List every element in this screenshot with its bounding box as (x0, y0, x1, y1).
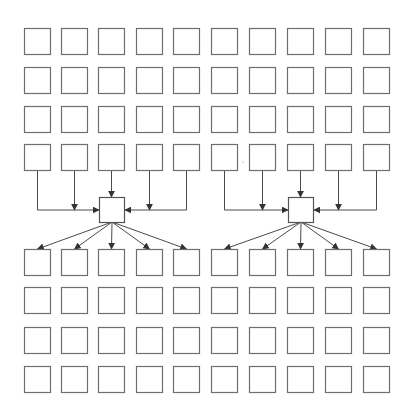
node-upper-r3-c9 (326, 107, 352, 133)
scan-speck (242, 161, 244, 163)
node-rect (212, 29, 238, 55)
node-rect (212, 288, 238, 314)
node-lower-r2-c2 (62, 288, 88, 314)
node-upper-r1-c8 (288, 29, 314, 55)
node-lower-r1-c2 (62, 250, 88, 276)
node-rect (364, 328, 390, 354)
node-upper-r4-c5 (174, 145, 200, 171)
node-lower-r4-c1 (25, 367, 51, 393)
node-rect (250, 107, 276, 133)
node-upper-r4-c8 (288, 145, 314, 171)
node-lower-r1-c4 (137, 250, 163, 276)
node-upper-r1-c7 (250, 29, 276, 55)
node-upper-r2-c1 (25, 68, 51, 94)
node-lower-r2-c7 (250, 288, 276, 314)
node-rect (326, 29, 352, 55)
node-rect (62, 68, 88, 94)
node-rect (212, 68, 238, 94)
node-rect (99, 29, 125, 55)
node-lower-r4-c5 (174, 367, 200, 393)
node-rect (364, 145, 390, 171)
node-lower-r3-c10 (364, 328, 390, 354)
hub-right-output-edge-c7 (263, 222, 302, 249)
network-diagram (0, 0, 412, 409)
node-upper-r3-c8 (288, 107, 314, 133)
node-lower-r1-c9 (326, 250, 352, 276)
node-rect (326, 250, 352, 276)
node-upper-r2-c2 (62, 68, 88, 94)
node-rect (62, 250, 88, 276)
node-rect (137, 367, 163, 393)
node-rect (250, 250, 276, 276)
node-lower-r2-c10 (364, 288, 390, 314)
node-rect (25, 328, 51, 354)
node-upper-r2-c9 (326, 68, 352, 94)
node-rect (137, 328, 163, 354)
node-lower-r1-c3 (99, 250, 125, 276)
node-upper-r3-c5 (174, 107, 200, 133)
node-rect (288, 68, 314, 94)
node-lower-r1-c7 (250, 250, 276, 276)
node-lower-r1-c5 (174, 250, 200, 276)
node-upper-r3-c6 (212, 107, 238, 133)
node-lower-r3-c8 (288, 328, 314, 354)
node-rect (250, 29, 276, 55)
node-lower-r2-c8 (288, 288, 314, 314)
hub-left-output-edge-c4 (112, 222, 150, 249)
node-rect (137, 288, 163, 314)
node-rect (174, 367, 200, 393)
node-upper-r1-c6 (212, 29, 238, 55)
node-upper-r1-c4 (137, 29, 163, 55)
node-rect (174, 328, 200, 354)
node-rect (326, 328, 352, 354)
node-rect (250, 68, 276, 94)
node-rect (326, 68, 352, 94)
hub-rect (289, 198, 314, 223)
node-upper-r1-c5 (174, 29, 200, 55)
node-lower-r2-c9 (326, 288, 352, 314)
node-rect (364, 68, 390, 94)
node-lower-r3-c9 (326, 328, 352, 354)
node-upper-r3-c1 (25, 107, 51, 133)
node-rect (25, 288, 51, 314)
node-lower-r4-c8 (288, 367, 314, 393)
node-rect (288, 29, 314, 55)
node-upper-r3-c7 (250, 107, 276, 133)
node-rect (174, 29, 200, 55)
node-rect (212, 107, 238, 133)
node-rect (174, 145, 200, 171)
node-rect (212, 328, 238, 354)
node-rect (250, 328, 276, 354)
node-upper-r2-c6 (212, 68, 238, 94)
node-rect (25, 29, 51, 55)
node-rect (288, 328, 314, 354)
node-rect (364, 29, 390, 55)
hub-right (289, 198, 314, 223)
node-rect (212, 250, 238, 276)
node-lower-r3-c5 (174, 328, 200, 354)
node-upper-r3-c3 (99, 107, 125, 133)
node-upper-r4-c7 (250, 145, 276, 171)
hub-right-input-edge-c6 (225, 170, 289, 210)
node-rect (174, 107, 200, 133)
hub-left-input-edge-c1 (38, 170, 100, 210)
node-lower-r4-c4 (137, 367, 163, 393)
node-rect (326, 145, 352, 171)
hub-right-output-edge-c6 (225, 222, 302, 249)
node-rect (25, 145, 51, 171)
hub-left-output-edge-c2 (75, 222, 113, 249)
node-rect (250, 145, 276, 171)
node-rect (62, 145, 88, 171)
hub-right-output-edge-c10 (301, 222, 377, 249)
node-lower-r3-c3 (99, 328, 125, 354)
node-lower-r2-c6 (212, 288, 238, 314)
node-rect (250, 367, 276, 393)
node-upper-r2-c5 (174, 68, 200, 94)
node-upper-r4-c6 (212, 145, 238, 171)
node-lower-r2-c4 (137, 288, 163, 314)
node-rect (25, 367, 51, 393)
edges-layer (38, 170, 377, 249)
node-rect (288, 250, 314, 276)
node-upper-r3-c4 (137, 107, 163, 133)
node-lower-r2-c5 (174, 288, 200, 314)
